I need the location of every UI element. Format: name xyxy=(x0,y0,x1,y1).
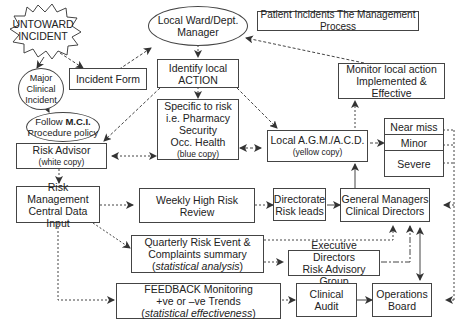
clinical-audit-line1: Clinical xyxy=(310,288,344,300)
severity-minor: Minor xyxy=(385,135,443,151)
severity-near-miss: Near miss xyxy=(385,119,443,135)
directorate-line2: Risk leads xyxy=(275,205,323,217)
quarterly-summary-node: Quarterly Risk Event & Complaints summar… xyxy=(131,235,264,273)
untoward-incident-node: UNTOWARD INCIDENT xyxy=(3,0,83,60)
weekly-line1: Weekly High Risk xyxy=(156,194,238,206)
ops-board-line1: Operations xyxy=(376,288,427,300)
major-clinical-incident-node: Major Clinical Incident xyxy=(18,68,64,110)
local-agm-line1: Local A.G.M./A.C.D. xyxy=(271,134,365,146)
quarterly-line2: Complaints summary xyxy=(148,248,247,260)
follow-mci-line1: Follow M.C.I. xyxy=(35,116,90,127)
feedback-line2: +ve or –ve Trends xyxy=(156,295,240,307)
incident-form-node: Incident Form xyxy=(69,68,147,90)
clinical-audit-line2: Audit xyxy=(315,300,339,312)
ward-manager-line2: Manager xyxy=(177,26,218,38)
monitor-line1: Monitor local action xyxy=(346,63,436,75)
identify-action-node: Identify local ACTION xyxy=(157,59,239,88)
untoward-line2: INCIDENT xyxy=(18,30,68,42)
gm-cd-line1: General Managers xyxy=(342,193,429,205)
rm-central-data-node: Risk Management Central Data Input xyxy=(16,186,100,223)
untoward-line1: UNTOWARD xyxy=(12,18,73,30)
risk-advisor-line1: Risk Advisor xyxy=(33,144,91,156)
local-agm-note: (yellow copy) xyxy=(293,146,343,158)
specific-line2: i.e. Pharmacy xyxy=(166,112,230,124)
severity-list: Near miss Minor Severe xyxy=(384,118,444,177)
quarterly-line3: (statistical analysis) xyxy=(152,260,243,272)
monitor-node: Monitor local action Implemented & Effec… xyxy=(338,63,445,99)
diagram-title: Patient Incidents The Management Process xyxy=(257,11,419,31)
gm-cd-line2: Clinical Directors xyxy=(346,205,425,217)
specific-note: (blue copy) xyxy=(177,148,219,160)
specific-line1: Specific to risk xyxy=(164,100,232,112)
local-agm-node: Local A.G.M./A.C.D. (yellow copy) xyxy=(267,130,368,162)
feedback-monitoring-node: FEEDBACK Monitoring +ve or –ve Trends (s… xyxy=(116,283,281,319)
severity-severe: Severe xyxy=(385,151,443,176)
ops-board-line2: Board xyxy=(388,300,416,312)
identify-line1: Identify local xyxy=(169,62,227,74)
risk-advisor-note: (white copy) xyxy=(39,156,85,168)
ward-manager-line1: Local Ward/Dept. xyxy=(158,14,239,26)
directorate-risk-leads-node: Directorate Risk leads xyxy=(273,188,326,221)
follow-mci-node: Follow M.C.I. Procedure policy xyxy=(26,112,100,142)
rm-central-line1: Risk Management xyxy=(17,181,99,205)
operations-board-node: Operations Board xyxy=(372,283,432,317)
gm-cd-node: General Managers Clinical Directors xyxy=(340,188,430,222)
exec-directors-node: Executive Directors Risk Advisory Group xyxy=(288,250,380,276)
clinical-audit-node: Clinical Audit xyxy=(296,283,357,317)
ward-manager-node: Local Ward/Dept. Manager xyxy=(148,6,248,46)
risk-advisor-node: Risk Advisor (white copy) xyxy=(16,143,107,169)
major-line1: Major xyxy=(30,73,53,84)
major-line2: Clinical xyxy=(26,84,55,95)
identify-line2: ACTION xyxy=(178,74,218,86)
incident-form-label: Incident Form xyxy=(76,73,140,85)
rm-central-line2: Central Data Input xyxy=(17,205,99,229)
major-line3: Incident xyxy=(25,95,57,106)
diagram-title-text: Patient Incidents The Management Process xyxy=(258,9,418,33)
specific-line3: Security xyxy=(179,124,217,136)
exec-line1: Executive Directors xyxy=(289,239,379,263)
quarterly-line1: Quarterly Risk Event & xyxy=(144,236,250,248)
specific-line4: Occ. Health xyxy=(171,136,226,148)
weekly-line2: Review xyxy=(180,206,214,218)
follow-mci-line2: Procedure policy xyxy=(28,127,99,138)
feedback-line3: (statistical effectiveness) xyxy=(141,307,255,319)
specific-risk-node: Specific to risk i.e. Pharmacy Security … xyxy=(157,99,239,160)
feedback-line1: FEEDBACK Monitoring xyxy=(144,283,253,295)
weekly-review-node: Weekly High Risk Review xyxy=(139,188,255,223)
monitor-line2: Implemented & Effective xyxy=(339,75,444,99)
directorate-line1: Directorate xyxy=(274,193,325,205)
